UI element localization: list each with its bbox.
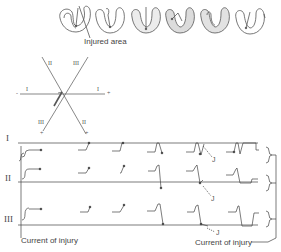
brace-III (22, 208, 29, 220)
lead-III-label: III (4, 214, 13, 224)
axis-I-right-label: I (97, 86, 99, 92)
heart-2 (96, 8, 125, 33)
axis-II-top-label: II (48, 60, 52, 66)
right-brace-II (266, 175, 272, 191)
right-bracket (251, 155, 276, 242)
lead-II-label: II (5, 173, 11, 183)
diagram-canvas (0, 0, 281, 252)
current-of-injury-right-label: Current of injury (195, 238, 252, 247)
injured-area-label: Injured area (84, 37, 127, 46)
current-of-injury-left-label: Current of injury (21, 236, 78, 245)
heart-5 (201, 8, 230, 33)
heart-4 (166, 8, 195, 33)
hexaxial-diagram (20, 57, 105, 134)
axis-plus-sign: + (107, 90, 110, 96)
axis-II-bottom-label: II (82, 119, 86, 125)
heart-3 (132, 7, 161, 33)
axis-III-bottom-label: III (38, 119, 44, 125)
right-brace-I (266, 147, 272, 163)
axis-plus-III: + (40, 130, 43, 136)
heart-1 (60, 6, 91, 32)
j-point-label-1: J (212, 156, 216, 163)
axis-plus-II: + (85, 130, 88, 136)
ecg-panel (18, 142, 276, 242)
j-pointer-2 (203, 186, 211, 196)
j-pointer-1 (203, 146, 212, 157)
axis-I-left-label: I (26, 86, 28, 92)
j-point-label-3: J (216, 229, 220, 236)
axis-III-top-label: III (73, 60, 79, 66)
j-point-label-2: J (211, 195, 215, 202)
heart-6 (236, 9, 265, 34)
heart-series (60, 6, 265, 38)
j-pointer-3 (207, 228, 215, 232)
lead-I-label: I (6, 133, 9, 143)
axis-minus-sign: - (16, 90, 18, 96)
right-brace-III (266, 211, 272, 227)
brace-II (22, 169, 29, 179)
